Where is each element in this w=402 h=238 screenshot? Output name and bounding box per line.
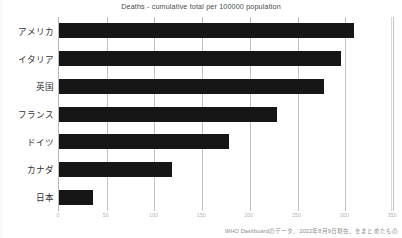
bar (59, 107, 277, 122)
bar-row (59, 134, 391, 149)
bar-chart: Deaths - cumulative total per 100000 pop… (0, 0, 402, 238)
x-axis-tick-label: 200 (244, 212, 253, 218)
x-axis-tick-labels: 050100150200250300350 (0, 212, 402, 224)
bars-container (59, 17, 391, 211)
y-axis-category-labels: アメリカイタリア英国フランスドイツカナダ日本 (0, 17, 54, 211)
y-axis-label: カナダ (0, 163, 54, 175)
x-axis-tick-label: 350 (388, 212, 397, 218)
bar-row (59, 190, 391, 205)
y-axis-label: イタリア (0, 53, 54, 65)
y-axis-label: ドイツ (0, 136, 54, 148)
bar-row (59, 79, 391, 94)
x-axis-tick-label: 0 (57, 212, 60, 218)
bar (59, 79, 324, 94)
y-axis-label: 英国 (0, 80, 54, 92)
bar (59, 23, 354, 38)
bar-row (59, 162, 391, 177)
bar (59, 190, 93, 205)
bar-row (59, 23, 391, 38)
plot-area (58, 17, 392, 211)
bar (59, 51, 341, 66)
gridline (393, 17, 394, 211)
bar-row (59, 51, 391, 66)
y-axis-label: アメリカ (0, 25, 54, 37)
bar-row (59, 107, 391, 122)
y-axis-label: 日本 (0, 191, 54, 203)
bar (59, 134, 229, 149)
y-axis-label: フランス (0, 108, 54, 120)
source-note: WHO Dashboardのデータ、2022年8月9日現在、をまとめたもの (0, 227, 398, 235)
x-axis-tick-label: 100 (149, 212, 158, 218)
x-axis-tick-label: 50 (103, 212, 109, 218)
x-axis-tick-label: 300 (340, 212, 349, 218)
chart-title: Deaths - cumulative total per 100000 pop… (0, 2, 402, 11)
x-axis-tick-label: 250 (292, 212, 301, 218)
x-axis-tick-label: 150 (197, 212, 206, 218)
bar (59, 162, 172, 177)
